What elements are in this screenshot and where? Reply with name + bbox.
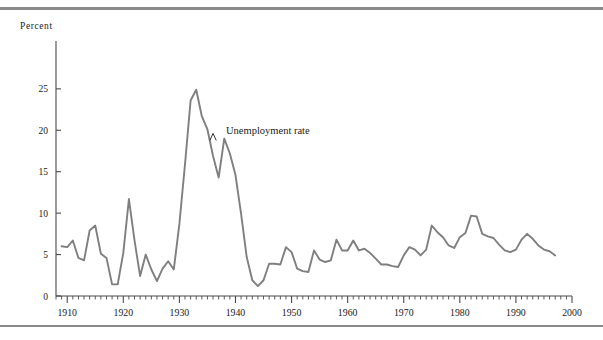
x-axis-tick-label: 1930	[170, 307, 190, 318]
annotation-caret-icon	[210, 133, 216, 140]
y-axis-tick-label: 10	[39, 209, 49, 219]
y-axis-tick-label: 25	[39, 84, 49, 94]
x-axis: 1910192019301940195019601970198019902000	[56, 296, 582, 318]
x-axis-tick-label: 1910	[57, 307, 77, 318]
y-axis-tick-label: 15	[39, 167, 49, 177]
x-axis-tick-label: 1960	[338, 307, 358, 318]
x-axis-tick-label: 1990	[506, 307, 526, 318]
x-axis-tick-label: 1950	[282, 307, 302, 318]
x-axis-tick-label: 1920	[114, 307, 134, 318]
x-axis-tick-label: 1970	[394, 307, 414, 318]
data-series-group	[62, 90, 556, 286]
y-axis-tick-label: 20	[39, 126, 49, 136]
plot-area: 0510152025 19101920193019401950196019701…	[0, 0, 603, 340]
y-axis: 0510152025	[39, 41, 62, 302]
series-line-unemployment-rate	[62, 90, 556, 286]
x-axis-tick-label: 1980	[450, 307, 470, 318]
x-axis-tick-label: 2000	[562, 307, 582, 318]
y-axis-tick-label: 0	[43, 292, 48, 302]
x-axis-tick-label: 1940	[226, 307, 246, 318]
y-axis-tick-label: 5	[43, 250, 48, 260]
figure-unemployment-rate: Percent Unemployment rate 0510152025 191…	[0, 0, 603, 340]
